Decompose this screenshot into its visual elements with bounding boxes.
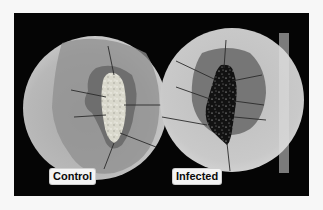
figure-frame: Control Infected bbox=[14, 13, 309, 196]
control-label: Control bbox=[50, 169, 95, 184]
infected-label: Infected bbox=[173, 169, 221, 184]
control-dish bbox=[23, 36, 174, 180]
infected-dish bbox=[160, 28, 304, 173]
